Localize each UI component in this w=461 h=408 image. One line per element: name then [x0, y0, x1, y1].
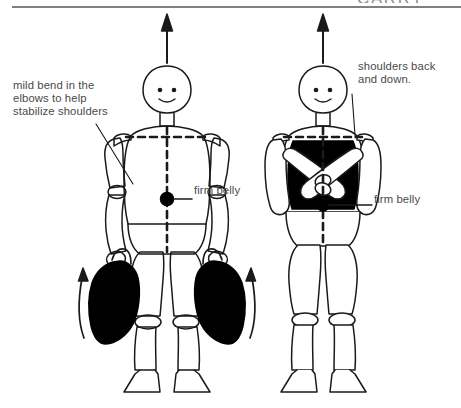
bag-left: [89, 261, 140, 344]
figure-left: [79, 14, 256, 392]
thigh-right-l: [289, 245, 321, 314]
neck-left: [160, 113, 174, 126]
lift-arrow-left: [79, 268, 89, 338]
foot-right-l: [281, 370, 317, 392]
thigh-right-r: [325, 245, 357, 314]
neck-right: [316, 113, 330, 126]
annotation-shoulders: shoulders back and down.: [358, 60, 461, 86]
leader-line-shoulders: [343, 94, 364, 138]
lift-arrow-right: [246, 268, 256, 338]
eye-left-left: [158, 88, 163, 93]
annotation-elbows: mild bend in the elbows to help stabiliz…: [13, 79, 143, 119]
forearm-left-l: [106, 195, 126, 254]
eye-right-right: [328, 88, 333, 93]
eye-left-right: [314, 88, 319, 93]
up-arrow-left: [162, 14, 173, 63]
shin-right-r: [334, 325, 355, 370]
up-arrow-right: [318, 14, 329, 63]
foot-left-l: [124, 370, 160, 392]
annotation-firm-belly-right: firm belly: [374, 193, 420, 206]
eye-right-left: [172, 88, 177, 93]
illustration-page: CARRY: [0, 0, 461, 408]
shin-left-l: [135, 327, 156, 370]
leader-line-elbows: [96, 124, 133, 184]
head-left: [143, 66, 191, 113]
mouth-right: [315, 99, 331, 102]
foot-left-r: [174, 370, 210, 392]
annotation-firm-belly-left: firm belly: [194, 184, 240, 197]
shin-left-r: [178, 327, 199, 370]
belly-dot-right: [317, 199, 329, 211]
forearm-left-r: [208, 195, 228, 254]
shin-right-l: [292, 325, 313, 370]
foot-right-r: [330, 370, 366, 392]
bag-right: [195, 261, 246, 344]
belly-dot-left: [161, 193, 174, 206]
head-right: [299, 66, 347, 113]
mouth-left: [159, 99, 175, 102]
